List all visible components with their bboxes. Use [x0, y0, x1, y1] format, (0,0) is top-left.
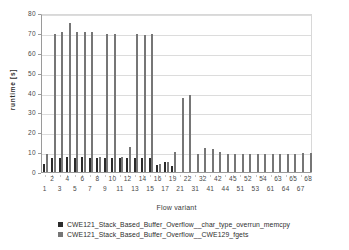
x-tick-label: 64 [278, 185, 294, 192]
x-tick-label: 21 [172, 185, 188, 192]
x-tick-label: 19 [165, 175, 181, 182]
legend-swatch-icon [58, 222, 63, 227]
x-tick-label: 7 [82, 185, 98, 192]
x-tick-label: 31 [187, 185, 203, 192]
bar [294, 154, 296, 172]
bar [144, 35, 146, 172]
x-tick-label: 1 [37, 185, 53, 192]
bar [302, 153, 304, 172]
x-tick-label: 6 [74, 175, 90, 182]
x-tick-label: 53 [248, 185, 264, 192]
legend-item: CWE121_Stack_Based_Buffer_Overflow__char… [58, 221, 338, 228]
x-tick-label: 11 [112, 185, 128, 192]
y-tick-label: 80 [12, 10, 36, 17]
x-tick-label: 42 [210, 175, 226, 182]
legend-label: CWE121_Stack_Based_Buffer_Overflow__char… [67, 221, 290, 228]
bar-series-container [42, 15, 311, 172]
x-tick-label: 2 [44, 175, 60, 182]
x-tick-label: 65 [285, 175, 301, 182]
bar [76, 32, 78, 172]
bar [84, 32, 86, 172]
x-tick-label: 14 [135, 175, 151, 182]
x-tick-label: 61 [263, 185, 279, 192]
x-tick-label: 8 [89, 175, 105, 182]
x-tick-label: 5 [67, 185, 83, 192]
chart-legend: CWE121_Stack_Based_Buffer_Overflow__char… [58, 221, 338, 241]
bar [182, 98, 184, 172]
legend-swatch-icon [58, 232, 63, 237]
bar [197, 154, 199, 172]
bar [279, 154, 281, 172]
y-tick-label: 40 [12, 90, 36, 97]
x-tick-label: 10 [105, 175, 121, 182]
bar [219, 152, 221, 172]
x-tick-label: 63 [270, 175, 286, 182]
x-tick-label: 68 [300, 175, 316, 182]
x-axis-title: Flow variant [41, 204, 312, 211]
bar [204, 148, 206, 172]
x-tick-label: 41 [202, 185, 218, 192]
bar [189, 95, 191, 173]
x-tick-label: 9 [97, 185, 113, 192]
bar [272, 154, 274, 172]
x-tick-label: 12 [120, 175, 136, 182]
plot-area [41, 14, 312, 173]
bar [99, 157, 101, 172]
y-tick-label: 30 [12, 109, 36, 116]
x-tick-label: 16 [150, 175, 166, 182]
x-tick-label: 54 [255, 175, 271, 182]
bar [287, 154, 289, 172]
x-axis-tick-labels: 1234567891011121314151617192122313241424… [41, 175, 312, 201]
x-tick-label: 4 [59, 175, 75, 182]
x-tick-label: 52 [240, 175, 256, 182]
bar [114, 34, 116, 172]
bar [249, 154, 251, 172]
x-tick-label: 32 [195, 175, 211, 182]
x-tick-label: 13 [127, 185, 143, 192]
bar [242, 154, 244, 172]
bar [212, 149, 214, 172]
x-tick-label: 22 [180, 175, 196, 182]
bar [46, 154, 48, 172]
x-tick-label: 67 [293, 185, 309, 192]
y-tick-label: 20 [12, 129, 36, 136]
bar [167, 162, 169, 172]
bar [69, 23, 71, 172]
bar [234, 154, 236, 172]
bar [310, 153, 312, 172]
bar [54, 34, 56, 172]
y-tick-label: 60 [12, 50, 36, 57]
legend-label: CWE121_Stack_Based_Buffer_Overflow__CWE1… [67, 231, 249, 238]
y-tick-mark [38, 173, 41, 174]
y-tick-label: 50 [12, 70, 36, 77]
bar [257, 154, 259, 172]
x-tick-label: 51 [232, 185, 248, 192]
x-tick-label: 45 [225, 175, 241, 182]
bar [106, 34, 108, 172]
bar-chart-figure: runtime [s] 01020304050607080 1234567891… [0, 0, 349, 250]
x-tick-label: 44 [217, 185, 233, 192]
bar [61, 32, 63, 172]
bar [121, 157, 123, 172]
y-tick-label: 0 [12, 169, 36, 176]
bar [264, 154, 266, 172]
x-tick-label: 3 [52, 185, 68, 192]
bar [174, 152, 176, 172]
bar [129, 147, 131, 172]
y-tick-label: 10 [12, 149, 36, 156]
bar [91, 32, 93, 172]
bar [159, 164, 161, 172]
bar [136, 34, 138, 172]
x-tick-label: 17 [157, 185, 173, 192]
y-tick-label: 70 [12, 30, 36, 37]
x-tick-label: 15 [142, 185, 158, 192]
bar [151, 34, 153, 172]
legend-item: CWE121_Stack_Based_Buffer_Overflow__CWE1… [58, 231, 338, 238]
bar [227, 154, 229, 172]
